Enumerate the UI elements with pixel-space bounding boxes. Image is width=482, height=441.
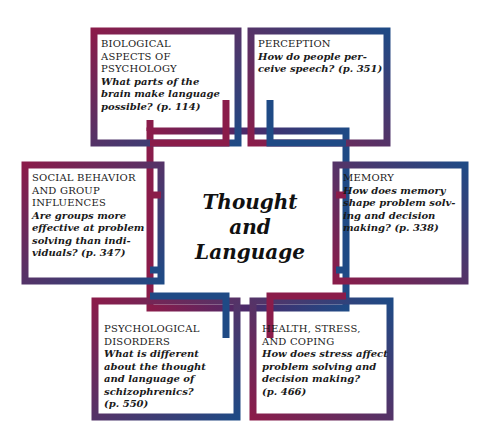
center-title: Thought and Language xyxy=(180,190,320,265)
box-question: How does memory shape problem solv- ing … xyxy=(343,185,465,235)
box-memory: MEMORY How does memory shape problem sol… xyxy=(343,172,465,235)
box-question: Are groups more effective at problem sol… xyxy=(32,210,160,260)
box-social: SOCIAL BEHAVIOR AND GROUP INFLUENCES Are… xyxy=(32,172,160,260)
box-heading: MEMORY xyxy=(343,172,465,185)
box-question: What parts of the brain make language po… xyxy=(101,76,233,114)
box-disorders: PSYCHOLOGICAL DISORDERS What is differen… xyxy=(104,323,236,411)
box-question: How does stress affect problem solving a… xyxy=(262,348,392,398)
box-heading: HEALTH, STRESS, AND COPING xyxy=(262,323,392,348)
box-question: What is different about the thought and … xyxy=(104,348,236,411)
box-heading: BIOLOGICAL ASPECTS OF PSYCHOLOGY xyxy=(101,38,233,76)
box-heading: PERCEPTION xyxy=(258,38,384,51)
box-heading: SOCIAL BEHAVIOR AND GROUP INFLUENCES xyxy=(32,172,160,210)
box-biological: BIOLOGICAL ASPECTS OF PSYCHOLOGY What pa… xyxy=(101,38,233,113)
box-health: HEALTH, STRESS, AND COPING How does stre… xyxy=(262,323,392,398)
box-perception: PERCEPTION How do people per- ceive spee… xyxy=(258,38,384,76)
box-heading: PSYCHOLOGICAL DISORDERS xyxy=(104,323,236,348)
box-question: How do people per- ceive speech? (p. 351… xyxy=(258,51,384,76)
